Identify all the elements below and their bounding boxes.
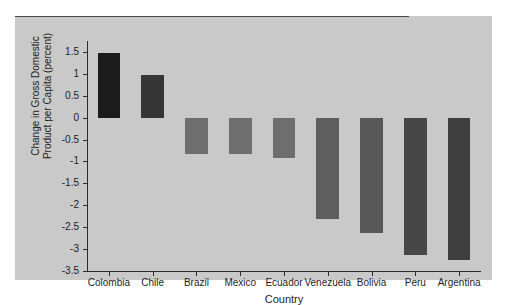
- y-tick-label: 0.5: [65, 90, 79, 101]
- x-tick-label-brazil: Brazil: [184, 277, 209, 289]
- y-tick-mark: [83, 227, 88, 228]
- y-tick-label: -3.5: [62, 265, 79, 276]
- x-tick-label-colombia: Colombia: [88, 277, 130, 289]
- bar-venezuela: [316, 118, 339, 220]
- y-tick-label: 0: [73, 112, 79, 123]
- x-tick-mark: [284, 271, 285, 276]
- x-tick-mark: [372, 271, 373, 276]
- y-axis-line: [87, 41, 88, 272]
- y-tick-label: -2.5: [62, 221, 79, 232]
- y-tick: 1.5: [83, 52, 88, 53]
- x-tick-mark: [109, 271, 110, 276]
- y-tick: -2: [83, 205, 88, 206]
- bar-chile: [141, 75, 164, 117]
- x-tick-mark: [459, 271, 460, 276]
- x-tick-mark: [328, 271, 329, 276]
- bar-peru: [404, 118, 427, 255]
- x-tick-label-peru: Peru: [405, 277, 426, 289]
- x-tick-label-mexico: Mexico: [224, 277, 256, 289]
- bar-brazil: [185, 118, 208, 154]
- y-tick-mark: [83, 96, 88, 97]
- y-tick-label: 1: [73, 68, 79, 79]
- y-tick-mark: [83, 52, 88, 53]
- y-tick: 1: [83, 74, 88, 75]
- y-tick: 0: [83, 118, 88, 119]
- chart-figure: 1.510.50-0.5-1-1.5-2-2.5-3-3.5 ColombiaC…: [15, 16, 492, 280]
- y-tick-mark: [83, 140, 88, 141]
- plot-area: 1.510.50-0.5-1-1.5-2-2.5-3-3.5 ColombiaC…: [15, 16, 492, 280]
- y-tick-label: -1: [70, 155, 79, 166]
- y-tick-mark: [83, 271, 88, 272]
- y-tick-label: 1.5: [65, 46, 79, 57]
- y-tick-label: -0.5: [62, 134, 79, 145]
- bar-argentina: [448, 118, 471, 260]
- x-tick-mark: [415, 271, 416, 276]
- bar-colombia: [98, 53, 121, 117]
- x-axis-title: Country: [87, 293, 481, 305]
- y-tick: -3: [83, 249, 88, 250]
- y-tick-mark: [83, 205, 88, 206]
- y-tick: -1: [83, 161, 88, 162]
- bar-mexico: [229, 118, 252, 154]
- y-axis-title: Change in Gross Domestic Product per Cap…: [30, 11, 54, 181]
- x-tick-label-venezuela: Venezuela: [304, 277, 351, 289]
- y-tick-label: -2: [70, 199, 79, 210]
- x-tick-label-argentina: Argentina: [438, 277, 481, 289]
- y-tick-label: -1.5: [62, 177, 79, 188]
- y-tick-mark: [83, 118, 88, 119]
- x-tick-mark: [240, 271, 241, 276]
- bar-bolivia: [360, 118, 383, 233]
- x-tick-label-chile: Chile: [141, 277, 164, 289]
- y-tick-mark: [83, 74, 88, 75]
- x-tick-mark: [153, 271, 154, 276]
- y-tick: -1.5: [83, 183, 88, 184]
- y-axis-title-line-1: Change in Gross Domestic: [30, 11, 42, 181]
- x-tick-label-bolivia: Bolivia: [357, 277, 386, 289]
- y-tick-mark: [83, 161, 88, 162]
- y-tick: -3.5: [83, 271, 88, 272]
- bar-ecuador: [273, 118, 296, 158]
- x-tick-mark: [196, 271, 197, 276]
- y-tick-mark: [83, 183, 88, 184]
- y-tick: -2.5: [83, 227, 88, 228]
- y-axis-title-line-2: Product per Capita (percent): [42, 11, 54, 181]
- y-tick: 0.5: [83, 96, 88, 97]
- x-tick-label-ecuador: Ecuador: [265, 277, 302, 289]
- y-tick-mark: [83, 249, 88, 250]
- zero-baseline: [15, 16, 409, 17]
- y-tick: -0.5: [83, 140, 88, 141]
- y-tick-label: -3: [70, 243, 79, 254]
